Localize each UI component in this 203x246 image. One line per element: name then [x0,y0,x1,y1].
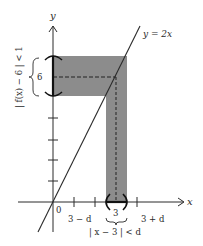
x-center-label: 3 [113,208,118,218]
y-interval-label: | f(x) − 6 | < 1 [14,46,25,108]
y-axis-label: y [49,10,56,21]
y-center-label: 6 [37,72,42,82]
line-label: y = 2x [142,29,172,39]
x-interval-label: | x − 3 | < d [89,227,141,238]
x-left-label: 3 − d [68,214,92,224]
origin-label: 0 [56,205,61,215]
x-axis-label: x [187,196,193,207]
x-right-label: 3 + d [141,214,165,224]
epsilon-delta-diagram: y x y = 2x 0 6 3 3 − d 3 + d | x − 3 | <… [0,0,203,246]
x-interval-brace-icon [106,218,127,225]
